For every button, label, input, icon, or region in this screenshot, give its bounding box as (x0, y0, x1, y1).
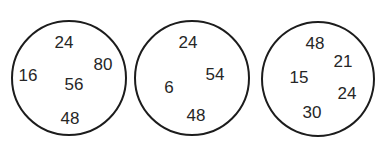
circle-1-number-top: 24 (55, 34, 74, 51)
circle-2-number-bottom: 48 (187, 107, 206, 124)
circle-1-number-left: 16 (19, 67, 38, 84)
circle-2-number-right: 54 (206, 66, 225, 83)
circle-3-number-upper-right: 21 (334, 53, 353, 70)
circle-3-number-top: 48 (306, 35, 325, 52)
circle-2-number-top: 24 (179, 34, 198, 51)
circle-1-number-right: 80 (94, 56, 113, 73)
circle-1-number-center: 56 (65, 76, 84, 93)
circle-2-number-left: 6 (164, 79, 173, 96)
circle-3-number-bottom: 30 (303, 104, 322, 121)
circle-3-number-left: 15 (290, 69, 309, 86)
circle-1-number-bottom: 48 (61, 110, 80, 127)
circle-3-number-lower-right: 24 (338, 85, 357, 102)
number-circles-puzzle: 24 80 16 56 48 24 54 6 48 48 21 15 24 30 (0, 0, 385, 150)
